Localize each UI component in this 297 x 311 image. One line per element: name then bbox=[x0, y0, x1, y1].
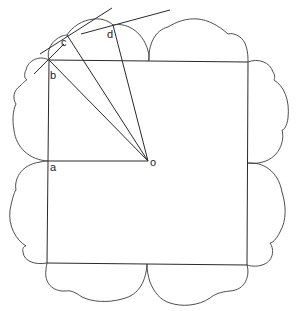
top-right-cloud bbox=[149, 19, 248, 62]
label-o: o bbox=[150, 157, 156, 168]
left-top-cloud bbox=[13, 80, 48, 161]
bottom-left-cloud bbox=[46, 263, 147, 301]
ray-o-d bbox=[113, 25, 148, 161]
left-bottom-cloud bbox=[10, 161, 48, 264]
right-bottom-cloud bbox=[247, 163, 285, 266]
tangent-d bbox=[81, 10, 170, 34]
label-c: c bbox=[61, 37, 67, 48]
ray-o-b bbox=[49, 60, 148, 161]
tangent-c bbox=[40, 8, 112, 54]
top-left-cloud bbox=[25, 19, 149, 80]
ray-o-c bbox=[67, 35, 148, 161]
diagram-canvas bbox=[0, 0, 297, 311]
square-outline bbox=[47, 60, 248, 265]
label-b: b bbox=[50, 70, 56, 81]
label-a: a bbox=[50, 162, 56, 173]
bottom-right-cloud bbox=[147, 264, 248, 305]
right-top-cloud bbox=[248, 60, 288, 163]
label-d: d bbox=[107, 29, 113, 40]
